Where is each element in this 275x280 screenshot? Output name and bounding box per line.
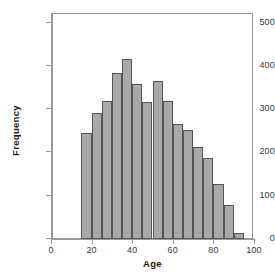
histogram-bar	[132, 84, 142, 238]
x-tick-mark	[132, 239, 133, 244]
y-tick-mark	[46, 195, 51, 196]
histogram-bar	[153, 81, 163, 239]
y-tick-mark	[46, 108, 51, 109]
histogram-figure: 0100200300400500 020406080100 Frequency …	[0, 0, 275, 280]
y-tick-label: 200	[231, 146, 275, 156]
histogram-bar	[203, 158, 213, 238]
y-tick-label: 300	[231, 103, 275, 113]
y-axis-title: Frequency	[10, 91, 21, 171]
histogram-bar	[213, 184, 223, 239]
y-tick-label: 400	[231, 60, 275, 70]
histogram-bar	[112, 73, 122, 239]
x-tick-label: 60	[158, 245, 188, 255]
histogram-bar	[183, 130, 193, 238]
histogram-bar	[193, 147, 203, 238]
histogram-bar	[173, 124, 183, 239]
y-tick-label: 100	[231, 190, 275, 200]
histogram-bar	[163, 101, 173, 238]
histogram-bar	[81, 133, 91, 238]
x-tick-mark	[51, 239, 52, 244]
y-tick-label: 0	[231, 233, 275, 243]
x-tick-label: 80	[198, 245, 228, 255]
y-tick-mark	[46, 151, 51, 152]
histogram-bar	[122, 59, 132, 239]
x-tick-mark	[254, 239, 255, 244]
x-tick-mark	[92, 239, 93, 244]
x-tick-label: 0	[36, 245, 66, 255]
x-tick-label: 40	[117, 245, 147, 255]
x-tick-mark	[173, 239, 174, 244]
histogram-bar	[92, 113, 102, 238]
histogram-bar	[102, 101, 112, 239]
y-tick-mark	[46, 65, 51, 66]
x-tick-label: 100	[239, 245, 269, 255]
y-tick-label: 500	[231, 17, 275, 27]
bar-series	[51, 13, 254, 239]
histogram-bar	[142, 102, 152, 239]
x-tick-label: 20	[77, 245, 107, 255]
x-axis-title: Age	[51, 258, 254, 269]
y-tick-mark	[46, 22, 51, 23]
x-tick-mark	[213, 239, 214, 244]
